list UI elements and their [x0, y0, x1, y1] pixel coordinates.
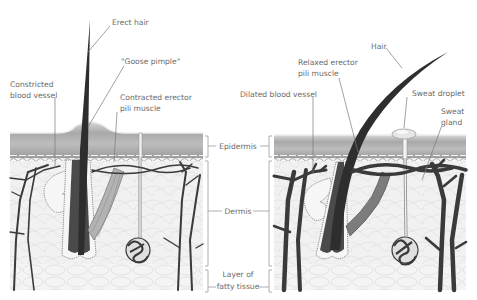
- label-sweat-gland-line1: Sweat: [441, 107, 464, 116]
- bracket-fatty-right: [269, 270, 272, 292]
- label-contracted-muscle-line1: Contracted erector: [120, 93, 193, 102]
- left-fatty-layer: [10, 264, 203, 290]
- bracket-dermis-left: [205, 161, 208, 266]
- leader-erect-hair: [88, 26, 110, 52]
- bracket-epidermis-right: [269, 136, 272, 157]
- leader-hair: [386, 48, 402, 68]
- label-hair: Hair: [371, 42, 387, 51]
- label-contracted-muscle-line2: pili muscle: [120, 104, 161, 113]
- leader-goose-pimple: [88, 66, 124, 127]
- left-sweat-gland: [126, 238, 150, 262]
- label-dilated-vessel: Dilated blood vessel: [240, 90, 317, 99]
- label-sweat-droplet: Sweat droplet: [412, 89, 465, 98]
- label-constricted-vessel-line1: Constricted: [10, 80, 54, 89]
- left-sweat-pore: [139, 133, 142, 158]
- right-skin-panel: Hair Relaxed erector pili muscle Dilated…: [240, 42, 466, 290]
- right-fatty-layer: [274, 264, 466, 290]
- bracket-epidermis-left: [205, 136, 208, 157]
- label-relaxed-muscle-line1: Relaxed erector: [298, 58, 359, 67]
- left-skin-panel: Erect hair "Goose pimple" Constricted bl…: [10, 18, 203, 290]
- label-goose-pimple: "Goose pimple": [121, 57, 180, 66]
- bracket-fatty-left: [205, 270, 208, 292]
- layer-labels: Epidermis Dermis Layer of fatty tissue: [205, 136, 272, 292]
- skin-diagram: Erect hair "Goose pimple" Constricted bl…: [0, 0, 477, 300]
- label-relaxed-muscle-line2: pili muscle: [298, 69, 339, 78]
- label-epidermis: Epidermis: [219, 142, 257, 151]
- label-constricted-vessel-line2: blood vessel: [10, 91, 57, 100]
- label-sweat-gland-line2: gland: [441, 118, 462, 127]
- label-erect-hair: Erect hair: [112, 18, 150, 27]
- label-fatty-line2: fatty tissue: [217, 282, 260, 291]
- label-fatty-line1: Layer of: [223, 270, 254, 279]
- bracket-dermis-right: [269, 161, 272, 266]
- label-dermis: Dermis: [225, 207, 252, 216]
- leader-sweat-droplet: [404, 97, 407, 128]
